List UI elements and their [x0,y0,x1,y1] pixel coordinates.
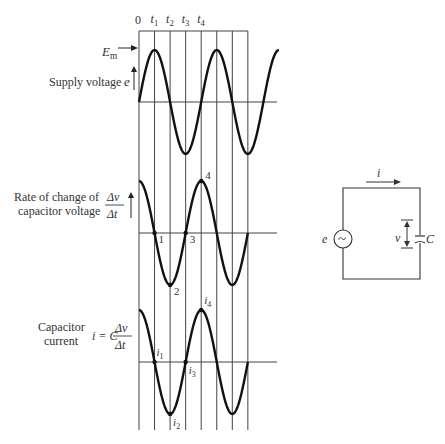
current-point-1 [152,360,156,364]
current-label-line1: Capacitor [38,320,85,334]
supply-symbol-e: e [124,74,130,89]
capacitor-label-c: C [426,232,435,246]
time-label-t1: t1 [151,12,159,28]
rate-point-label-3: 3 [190,233,196,245]
capacitor-waveform-diagram: 0t1t2t3t4EmSupply voltageeRate of change… [0,0,445,444]
rate-up-arrow-head [128,192,134,198]
current-point-label-1: i1 [157,346,164,361]
circuit-diagram: ~eCvi [322,166,435,279]
current-point-4 [199,308,203,312]
rate-label-line2: capacitor voltage [18,204,100,218]
supply-voltage-label: Supply voltage [49,75,121,89]
time-label-t4: t4 [197,12,205,28]
time-label-0: 0 [135,13,141,27]
current-arrow-head [394,179,401,185]
current-point-label-3: i3 [189,364,196,379]
peak-label-em: Em [101,44,118,61]
rate-point-3 [183,231,187,235]
current-point-3 [183,360,187,364]
up-arrow-head [131,66,137,72]
rate-point-label-2: 2 [174,285,180,297]
time-label-t2: t2 [166,12,174,28]
current-point-label-4: i4 [204,294,211,309]
rate-frac-den: Δt [106,207,118,221]
current-frac-den: Δt [114,338,126,352]
ac-source-glyph: ~ [338,231,346,247]
rate-point-2 [168,283,172,287]
rate-point-label-4: 4 [205,169,211,181]
rate-frac-num: Δv [106,190,120,204]
rate-point-label-1: 1 [159,233,165,245]
time-label-t3: t3 [182,12,190,28]
labels: 0t1t2t3t4EmSupply voltageeRate of change… [14,12,211,431]
rate-label-line1: Rate of change of [14,190,99,204]
source-label-e: e [322,232,328,246]
capacitor-plate-bottom [415,242,425,244]
rate-point-1 [152,231,156,235]
current-point-label-2: i2 [173,416,180,431]
voltage-label-v: v [395,231,401,245]
v-arrow-down [404,241,410,247]
em-arrow-head [131,45,138,51]
time-grid [139,31,277,430]
current-label-line2: current [44,334,79,348]
rate-point-4 [199,179,203,183]
circuit-wire-top [343,188,420,235]
current-point-2 [168,412,172,416]
current-label-i: i [377,166,380,180]
v-arrow-up [404,221,410,227]
current-frac-num: Δv [114,321,128,335]
